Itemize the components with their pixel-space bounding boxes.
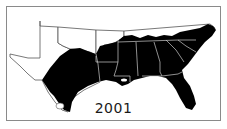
map-year-label: 2001 <box>0 100 227 116</box>
lake-pontchartrain <box>121 79 127 82</box>
